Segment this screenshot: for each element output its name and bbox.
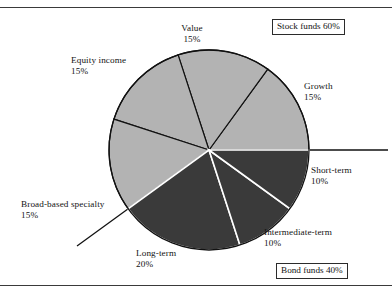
- pie-label-long-term: Long-term 20%: [136, 248, 176, 270]
- pie-label-growth-name: Growth: [304, 81, 333, 91]
- group-box-stock-funds: Stock funds 60%: [272, 19, 345, 35]
- group-box-bond-funds: Bond funds 40%: [276, 263, 348, 279]
- pie-label-long-term-name: Long-term: [136, 248, 176, 258]
- pie-chart-graphic: [0, 8, 392, 285]
- pie-label-equity-income-name: Equity income: [71, 55, 126, 65]
- pie-label-short-term-name: Short-term: [311, 165, 352, 175]
- pie-label-short-term: Short-term 10%: [311, 165, 352, 187]
- pie-label-value-name: Value: [181, 23, 202, 33]
- pie-label-value: Value 15%: [181, 23, 202, 45]
- pie-label-broad-based-specialty: Broad-based specialty 15%: [21, 199, 104, 221]
- pie-label-long-term-percent: 20%: [136, 259, 176, 270]
- bottom-horizontal-rule: [0, 285, 392, 286]
- pie-label-equity-income: Equity income 15%: [71, 55, 126, 77]
- figure-page: Value 15% Equity income 15% Growth 15% S…: [0, 0, 392, 294]
- pie-label-growth: Growth 15%: [304, 81, 333, 103]
- pie-label-intermediate-term-percent: 10%: [264, 238, 332, 249]
- pie-label-short-term-percent: 10%: [311, 176, 352, 187]
- pie-chart: Value 15% Equity income 15% Growth 15% S…: [0, 8, 392, 285]
- pie-label-value-percent: 15%: [181, 34, 202, 45]
- pie-label-equity-income-percent: 15%: [71, 66, 126, 77]
- pie-label-broad-based-specialty-percent: 15%: [21, 210, 104, 221]
- pie-label-growth-percent: 15%: [304, 92, 333, 103]
- pie-label-intermediate-term: Intermediate-term 10%: [264, 227, 332, 249]
- pie-label-broad-based-specialty-name: Broad-based specialty: [21, 199, 104, 209]
- pie-label-intermediate-term-name: Intermediate-term: [264, 227, 332, 237]
